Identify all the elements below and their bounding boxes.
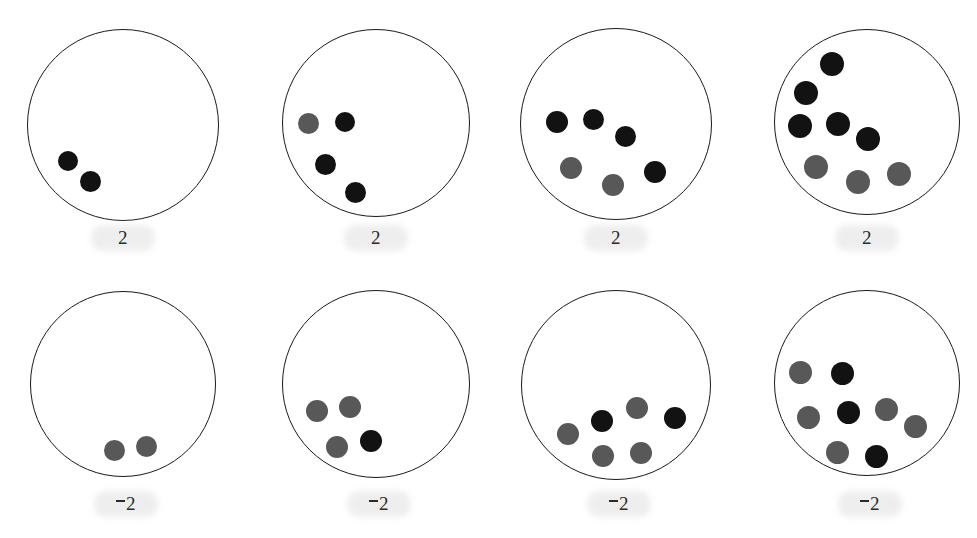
label-number: 2 — [611, 227, 621, 248]
negative-sign-bar-icon — [369, 500, 378, 502]
black-dot — [591, 410, 613, 432]
gray-dot — [602, 174, 624, 196]
label-text: 2 — [862, 228, 872, 247]
black-dot — [826, 112, 850, 136]
panel-label: 2 — [807, 228, 927, 247]
gray-dot — [298, 113, 319, 134]
black-dot — [856, 127, 880, 151]
enclosure-circle — [27, 29, 219, 221]
gray-dot — [136, 436, 157, 457]
black-dot — [831, 362, 854, 385]
label-text: 2 — [611, 228, 621, 247]
negative-sign-bar-icon — [860, 500, 869, 502]
gray-dot — [560, 157, 582, 179]
gray-dot — [875, 398, 898, 421]
gray-dot — [630, 442, 652, 464]
gray-dot — [789, 361, 812, 384]
black-dot — [837, 401, 860, 424]
black-dot — [644, 161, 666, 183]
label-number: 2 — [371, 227, 381, 248]
panel-label: 2 — [66, 494, 186, 513]
black-dot — [788, 114, 812, 138]
label-number: 2 — [862, 227, 872, 248]
label-number: 2 — [126, 493, 136, 514]
negative-sign-bar-icon — [116, 500, 125, 502]
black-dot — [335, 112, 355, 132]
panel-label: 2 — [810, 494, 930, 513]
panel-label: 2 — [63, 228, 183, 247]
label-text: 2 — [116, 494, 136, 513]
gray-dot — [846, 170, 870, 194]
label-number: 2 — [379, 493, 389, 514]
label-text: 2 — [369, 494, 389, 513]
panel-label: 2 — [319, 494, 439, 513]
panel-label: 2 — [316, 228, 436, 247]
label-text: 2 — [860, 494, 880, 513]
black-dot — [820, 52, 844, 76]
black-dot — [546, 111, 568, 133]
black-dot — [80, 171, 101, 192]
black-dot — [615, 126, 636, 147]
label-text: 2 — [118, 228, 128, 247]
label-text: 2 — [371, 228, 381, 247]
negative-sign-bar-icon — [609, 500, 618, 502]
dot-circles-figure: 22222222 — [0, 0, 977, 538]
gray-dot — [104, 440, 125, 461]
label-number: 2 — [118, 227, 128, 248]
gray-dot — [326, 436, 348, 458]
gray-dot — [804, 155, 828, 179]
gray-dot — [557, 423, 579, 445]
gray-dot — [904, 415, 927, 438]
gray-dot — [887, 162, 911, 186]
label-text: 2 — [609, 494, 629, 513]
black-dot — [360, 430, 382, 452]
black-dot — [794, 81, 818, 105]
gray-dot — [826, 441, 849, 464]
black-dot — [664, 407, 686, 429]
enclosure-circle — [521, 290, 711, 480]
black-dot — [345, 182, 366, 203]
black-dot — [583, 109, 604, 130]
black-dot — [865, 445, 888, 468]
gray-dot — [339, 396, 361, 418]
black-dot — [58, 151, 78, 171]
gray-dot — [797, 406, 820, 429]
label-number: 2 — [619, 493, 629, 514]
gray-dot — [592, 445, 614, 467]
label-number: 2 — [870, 493, 880, 514]
black-dot — [315, 154, 336, 175]
gray-dot — [626, 397, 648, 419]
panel-label: 2 — [559, 494, 679, 513]
gray-dot — [306, 400, 328, 422]
panel-label: 2 — [556, 228, 676, 247]
